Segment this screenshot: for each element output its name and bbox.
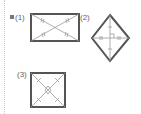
figures (0, 0, 141, 114)
square-figure (31, 73, 65, 107)
rhombus-figure (92, 15, 129, 61)
rectangle-figure (31, 14, 79, 41)
